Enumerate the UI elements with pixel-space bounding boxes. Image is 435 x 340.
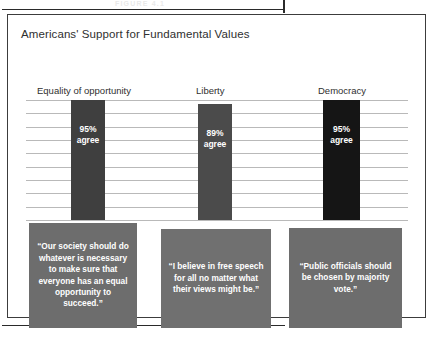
bar-value-label: 89% <box>206 128 223 139</box>
figure-title: Americans' Support for Fundamental Value… <box>21 28 250 40</box>
bar-value-sublabel: agree <box>330 135 353 146</box>
running-head: FIGURE 4.1 <box>60 0 220 7</box>
bar-value-label: 95% <box>333 124 350 135</box>
top-vertical-tick <box>283 0 285 13</box>
bar-liberty[interactable]: 89%agree <box>198 104 232 220</box>
bar-value-sublabel: agree <box>77 135 100 146</box>
quote-box-2: “I believe in free speech for all no mat… <box>161 229 271 328</box>
figure-frame: Americans' Support for Fundamental Value… <box>7 14 426 318</box>
figure-page: FIGURE 4.1 Americans' Support for Fundam… <box>0 0 435 340</box>
bar-value-label: 95% <box>79 124 96 135</box>
quote-box-3: “Public officials should be chosen by ma… <box>289 228 402 328</box>
category-label-3: Democracy <box>318 85 366 96</box>
chart-plot-area: 95%agree89%agree95%agree Equality of opp… <box>15 85 420 220</box>
category-label-1: Equality of opportunity <box>37 85 131 96</box>
category-label-2: Liberty <box>196 85 225 96</box>
bar-equality-of-opportunity[interactable]: 95%agree <box>71 100 105 220</box>
bar-value-sublabel: agree <box>204 139 227 150</box>
bar-democracy[interactable]: 95%agree <box>323 100 360 220</box>
top-horizontal-rule <box>2 9 285 10</box>
gridline <box>26 220 408 221</box>
quote-box-1: “Our society should do whatever is neces… <box>29 223 137 328</box>
